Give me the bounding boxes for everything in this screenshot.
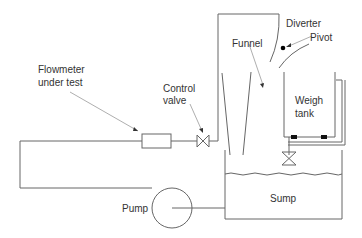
weigh-tank <box>284 72 345 155</box>
sump-label: Sump <box>270 193 297 204</box>
weigh-tank-label-line1: Weigh <box>295 95 323 106</box>
control-valve-label-line1: Control <box>163 83 195 94</box>
flow-calibration-diagram: Flowmeter under test Control valve Funne… <box>0 0 362 238</box>
control-valve-icon <box>197 135 209 147</box>
control-valve-label-line2: valve <box>163 95 187 106</box>
pivot-dot <box>281 46 286 51</box>
funnel <box>222 72 251 155</box>
flowmeter-label-line1: Flowmeter <box>38 64 85 75</box>
flowmeter-box <box>142 134 171 148</box>
sump <box>225 150 342 219</box>
pump <box>152 188 192 228</box>
diverter-label: Diverter <box>286 18 322 29</box>
pump-label: Pump <box>122 203 149 214</box>
funnel-label: Funnel <box>232 38 263 49</box>
pivot-label: Pivot <box>310 32 332 43</box>
weigh-tank-label-line2: tank <box>295 108 315 119</box>
flowmeter-label-line2: under test <box>38 77 83 88</box>
